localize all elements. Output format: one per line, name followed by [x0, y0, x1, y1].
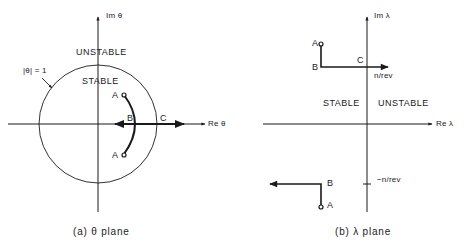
stable-region-label-lambda: STABLE [323, 99, 360, 108]
lower-point-a-marker [319, 205, 323, 209]
unstable-region-label: UNSTABLE [76, 48, 127, 57]
upper-point-b-label: B [312, 63, 319, 72]
unstable-region-label-lambda: UNSTABLE [378, 99, 429, 108]
re-theta-label: Re θ [208, 120, 226, 128]
unit-circle-label: |θ| = 1 [23, 67, 47, 75]
re-lambda-label: Re λ [436, 120, 453, 128]
im-theta-label: Im θ [106, 12, 122, 20]
lower-point-a-label: A [327, 201, 334, 210]
upper-point-a-marker [319, 42, 323, 46]
circle-label-pointer [42, 78, 52, 88]
stable-region-label: STABLE [82, 77, 119, 86]
point-a-top-label: A [112, 91, 119, 100]
tick-pos-label: n/rev [374, 72, 393, 80]
lambda-plane [263, 17, 432, 212]
im-lambda-label: Im λ [374, 12, 390, 20]
point-a-top-marker [122, 93, 126, 97]
point-a-bottom-marker [122, 153, 126, 157]
point-b-label: B [127, 114, 134, 123]
upper-point-a-label: A [312, 39, 319, 48]
tick-neg-label: −n/rev [377, 176, 401, 184]
lower-locus [270, 184, 321, 206]
point-a-bottom-label: A [112, 151, 119, 160]
point-c-label: C [160, 114, 167, 123]
lower-point-b-label: B [327, 179, 334, 188]
point-c-label-lambda: C [357, 56, 364, 65]
upper-locus [321, 45, 388, 67]
caption-theta-plane: (a) θ plane [73, 227, 130, 237]
diagram-canvas [0, 0, 466, 247]
caption-lambda-plane: (b) λ plane [335, 227, 391, 237]
